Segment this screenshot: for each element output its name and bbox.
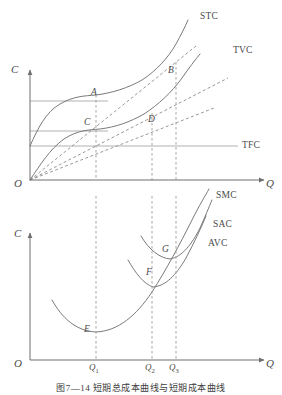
lower-x-axis-label: Q	[266, 358, 274, 369]
point-label-b: B	[168, 66, 174, 76]
lower-y-axis-label: C	[14, 228, 21, 239]
tfc-curve-label: TFC	[242, 141, 260, 151]
sac-curve-label: SAC	[213, 220, 232, 230]
tvc-curve-label: TVC	[233, 46, 253, 56]
point-label-g: G	[162, 245, 169, 255]
upper-x-axis-label: Q	[266, 178, 274, 189]
xtick-label-q2: Q2	[145, 363, 155, 374]
xtick-label-q3: Q3	[169, 363, 179, 374]
avc-curve-label: AVC	[208, 239, 227, 249]
lower-origin-label: O	[14, 358, 22, 369]
point-label-e: E	[84, 325, 90, 335]
point-label-a: A	[91, 88, 97, 98]
figure-canvas	[0, 0, 282, 395]
tvc-curve	[30, 54, 200, 180]
upper-y-axis-label: C	[11, 64, 18, 75]
figure-caption: 图7—14 短期总成本曲线与短期成本曲线	[0, 381, 282, 395]
smc-curve-label: SMC	[216, 191, 237, 201]
total-cost-panel	[30, 20, 264, 180]
xtick-label-q1: Q1	[89, 363, 99, 374]
tangent-ray-to-d	[30, 78, 228, 180]
stc-curve-label: STC	[200, 12, 218, 22]
upper-origin-label: O	[14, 178, 22, 189]
smc-curve	[52, 189, 209, 332]
point-label-d: D	[148, 115, 155, 125]
point-label-f: F	[146, 268, 152, 278]
point-label-c: C	[84, 118, 90, 128]
cost-curves-figure: C Q O STC TVC TFC A B C D C Q O SMC SAC …	[0, 0, 282, 395]
